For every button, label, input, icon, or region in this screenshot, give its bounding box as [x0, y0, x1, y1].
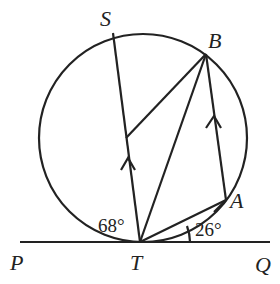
label-s: S: [100, 6, 111, 31]
label-a: A: [228, 188, 244, 213]
segment-ba: [206, 54, 226, 200]
label-q: Q: [255, 252, 271, 277]
label-b: B: [208, 28, 221, 53]
parallel-arrow-ts: [121, 158, 135, 170]
parallel-arrow-ab: [206, 116, 221, 128]
label-p: P: [9, 250, 23, 275]
label-t: T: [130, 250, 144, 275]
geometry-diagram: S B A T P Q 68° 26°: [0, 0, 280, 284]
segment-b-inner: [126, 54, 206, 138]
angle-label-26: 26°: [195, 219, 222, 240]
angle-arc-26: [187, 226, 190, 242]
angle-label-68: 68°: [98, 215, 125, 236]
